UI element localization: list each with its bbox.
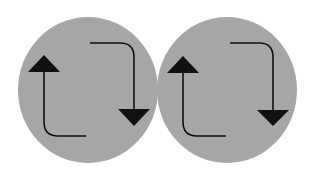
swap-arrows-icon-left	[0, 0, 158, 177]
swap-arrows-icon-right	[139, 0, 297, 177]
circle-background	[18, 17, 158, 163]
swap-arrows-icon	[139, 0, 297, 177]
swap-arrows-icon	[0, 0, 158, 177]
circle-background	[157, 17, 297, 163]
